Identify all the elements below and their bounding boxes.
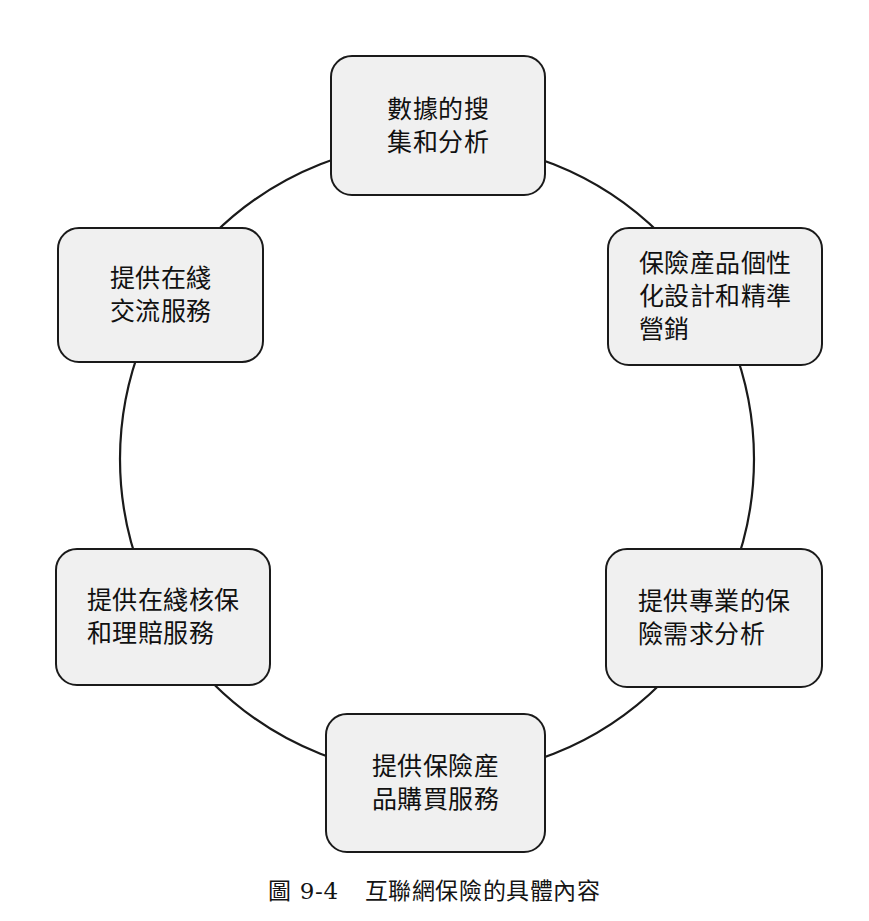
node-online-communication-service[interactable]: 提供在綫 交流服務	[57, 227, 264, 363]
node-label: 提供在綫 交流服務	[104, 262, 218, 328]
figure-caption: 圖 9-4互聯網保險的具體內容	[0, 872, 869, 906]
cycle-diagram-figure: 數據的搜 集和分析 保險産品個性 化設計和精準 營銷 提供專業的保 險需求分析 …	[0, 0, 869, 921]
node-label: 提供專業的保 險需求分析	[632, 585, 797, 651]
node-online-underwriting-claims-service[interactable]: 提供在綫核保 和理賠服務	[55, 548, 271, 686]
figure-caption-number: 圖 9-4	[268, 878, 338, 904]
node-insurance-product-purchase-service[interactable]: 提供保險産 品購買服務	[325, 713, 546, 853]
node-personalized-product-design-marketing[interactable]: 保險産品個性 化設計和精準 營銷	[607, 227, 823, 366]
node-label: 提供保險産 品購買服務	[366, 750, 506, 816]
node-data-collection-analysis[interactable]: 數據的搜 集和分析	[330, 55, 546, 196]
node-label: 提供在綫核保 和理賠服務	[81, 584, 246, 650]
node-label: 保險産品個性 化設計和精準 營銷	[633, 247, 798, 346]
node-professional-insurance-needs-analysis[interactable]: 提供專業的保 險需求分析	[605, 548, 823, 688]
node-label: 數據的搜 集和分析	[381, 93, 495, 159]
figure-caption-title: 互聯網保險的具體內容	[365, 878, 601, 904]
